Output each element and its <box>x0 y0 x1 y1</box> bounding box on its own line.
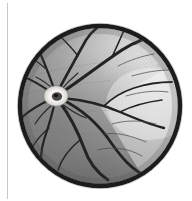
fundus-illustration <box>0 0 192 201</box>
signature-mark: ill. <box>157 63 162 68</box>
optic-disc <box>44 86 69 107</box>
fundus-figure: ill. <box>0 0 192 201</box>
central-vessel-trunk <box>54 94 58 97</box>
retina-field <box>21 27 192 184</box>
page-canvas: ill. Ophthalmoscopic view of the human o… <box>0 0 192 201</box>
